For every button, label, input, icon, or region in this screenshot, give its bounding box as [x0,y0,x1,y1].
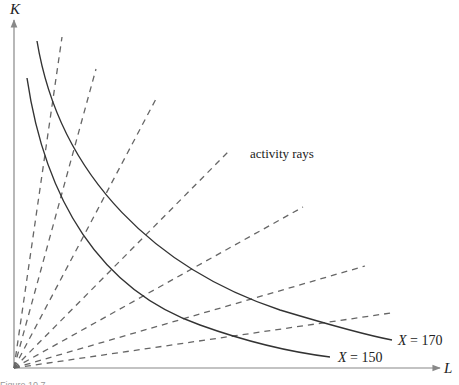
activity-ray [14,152,228,368]
activity-ray [14,313,391,368]
activity-rays-label: activity rays [250,146,314,162]
activity-ray [14,266,365,368]
figure-caption: Figure 10.7 ... [0,377,459,385]
isoquant-150-label: X = 150 [338,350,382,366]
isoquant-150-var: X [338,350,347,365]
isoquant-150-value: = 150 [350,350,382,365]
activity-ray [14,97,157,368]
diagram-canvas [0,0,459,385]
isoquant-170-label: X = 170 [398,333,442,349]
activity-rays [14,37,391,368]
isoquant-170-value: = 170 [410,333,442,348]
isoquant-170 [37,41,392,340]
activity-ray [14,37,62,368]
activity-ray [14,69,96,368]
l-axis-label: L [444,360,452,377]
k-axis-label: K [10,1,20,18]
isoquant-170-var: X [398,333,407,348]
